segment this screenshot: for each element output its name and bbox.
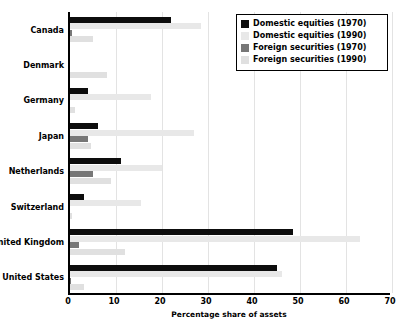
legend-item[interactable]: Foreign securities (1990): [241, 54, 383, 66]
bar: [70, 194, 84, 200]
x-axis-tick-labels: 010203040506070: [68, 297, 390, 311]
y-axis-category-label: Canada: [31, 25, 65, 34]
legend-item[interactable]: Domestic equities (1970): [241, 18, 383, 30]
legend-swatch-icon: [241, 32, 249, 40]
legend-label: Foreign securities (1970): [253, 44, 366, 52]
bar: [70, 213, 72, 219]
legend-label: Domestic equities (1970): [253, 20, 366, 28]
x-axis-title: Percentage share of assets: [68, 310, 390, 319]
bar: [70, 143, 91, 149]
bar: [70, 158, 121, 164]
bar-group: [70, 118, 390, 153]
y-axis-category-label: United States: [2, 273, 64, 282]
bar: [70, 242, 79, 248]
bar: [70, 236, 360, 242]
legend-item[interactable]: Foreign securities (1970): [241, 42, 383, 54]
bar-group: [70, 83, 390, 118]
bar: [70, 123, 98, 129]
bar: [70, 265, 277, 271]
top-cropped-caption-strip: [0, 0, 394, 8]
x-tick-label: 70: [384, 297, 395, 306]
y-axis-category-label: United Kingdom: [0, 237, 64, 246]
legend-swatch-icon: [241, 44, 249, 52]
legend-label: Domestic equities (1990): [253, 32, 366, 40]
y-axis-category-label: Germany: [23, 96, 64, 105]
bar: [70, 72, 107, 78]
bar: [70, 165, 162, 171]
x-tick-label: 10: [108, 297, 119, 306]
bar: [70, 88, 88, 94]
x-tick-label: 30: [200, 297, 211, 306]
y-axis-labels: CanadaDenmarkGermanyJapanNetherlandsSwit…: [0, 12, 64, 295]
bar: [70, 178, 111, 184]
legend-swatch-icon: [241, 20, 249, 28]
bar-group: [70, 224, 390, 259]
bar: [70, 94, 151, 100]
bar: [70, 278, 71, 284]
x-tick-label: 60: [338, 297, 349, 306]
y-axis-category-label: Netherlands: [9, 167, 64, 176]
y-axis-category-label: Denmark: [23, 61, 64, 70]
y-axis-category-label: Japan: [39, 131, 64, 140]
x-tick-label: 20: [154, 297, 165, 306]
legend-swatch-icon: [241, 56, 249, 64]
x-tick-label: 50: [292, 297, 303, 306]
bar-group: [70, 189, 390, 224]
bar-group: [70, 154, 390, 189]
bar: [70, 107, 75, 113]
bar: [70, 30, 72, 36]
gridline: [392, 12, 393, 293]
bar: [70, 136, 88, 142]
x-tick-label: 0: [65, 297, 71, 306]
bar: [70, 36, 93, 42]
bar: [70, 229, 293, 235]
bar: [70, 17, 171, 23]
bar: [70, 284, 84, 290]
bar: [70, 130, 194, 136]
bar: [70, 200, 141, 206]
bar: [70, 171, 93, 177]
legend-label: Foreign securities (1990): [253, 56, 366, 64]
bar: [70, 271, 282, 277]
legend: Domestic equities (1970)Domestic equitie…: [236, 14, 388, 71]
bar-group: [70, 260, 390, 295]
bar: [70, 249, 125, 255]
y-axis-category-label: Switzerland: [11, 202, 64, 211]
x-tick-label: 40: [246, 297, 257, 306]
legend-item[interactable]: Domestic equities (1990): [241, 30, 383, 42]
bar: [70, 23, 201, 29]
